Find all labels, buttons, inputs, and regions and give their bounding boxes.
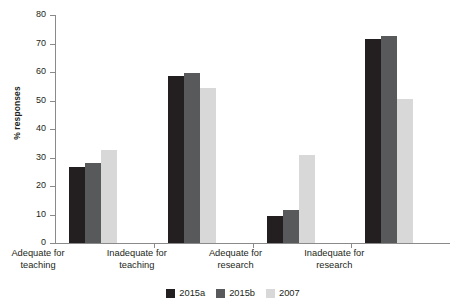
category-label-line: Inadequate for: [82, 248, 192, 260]
y-axis-title: % responses: [12, 63, 22, 163]
y-axis-tick: 60: [50, 72, 55, 73]
legend-item: 2015a: [166, 288, 205, 298]
category-label-line: research: [181, 260, 291, 272]
legend-label: 2015a: [179, 288, 205, 298]
legend-swatch-icon: [266, 289, 275, 298]
bar: [299, 155, 315, 243]
bar: [381, 36, 397, 243]
category-label-line: research: [279, 260, 389, 272]
legend-swatch-icon: [216, 289, 225, 298]
bar: [69, 167, 85, 243]
y-axis-tick-label: 70: [36, 38, 46, 48]
category-label-line: Adequate for: [181, 248, 291, 260]
y-axis-line: [55, 15, 56, 243]
bar: [267, 216, 283, 243]
y-axis-tick-label: 10: [36, 209, 46, 219]
y-axis-tick-label: 40: [36, 123, 46, 133]
legend-label: 2015b: [229, 288, 255, 298]
bar: [101, 150, 117, 243]
legend-item: 2007: [266, 288, 300, 298]
bar: [184, 73, 200, 243]
y-axis-tick: 30: [50, 158, 55, 159]
y-axis-tick-label: 0: [41, 237, 46, 247]
bar: [85, 163, 101, 243]
x-axis-category-label: Inadequate forresearch: [279, 248, 389, 271]
x-axis-category-label: Inadequate forteaching: [82, 248, 192, 271]
x-axis-category-label: Adequate forteaching: [0, 248, 93, 271]
bar: [200, 88, 216, 243]
bar-chart: % responses 01020304050607080 Adequate f…: [0, 0, 466, 308]
y-axis-tick-label: 30: [36, 152, 46, 162]
legend-label: 2007: [279, 288, 300, 298]
y-axis-tick-label: 80: [36, 9, 46, 19]
bar: [365, 39, 381, 243]
y-axis-tick: 10: [50, 215, 55, 216]
legend-swatch-icon: [166, 289, 175, 298]
category-label-line: teaching: [82, 260, 192, 272]
y-axis-tick: 0: [50, 243, 55, 244]
category-label-line: Adequate for: [0, 248, 93, 260]
category-label-line: Inadequate for: [279, 248, 389, 260]
bar: [283, 210, 299, 243]
y-axis-tick: 80: [50, 15, 55, 16]
y-axis-tick-label: 60: [36, 66, 46, 76]
x-axis-category-label: Adequate forresearch: [181, 248, 291, 271]
chart-legend: 2015a2015b2007: [0, 288, 466, 298]
y-axis-tick: 20: [50, 186, 55, 187]
y-axis-tick: 40: [50, 129, 55, 130]
bar: [168, 76, 184, 243]
legend-item: 2015b: [216, 288, 255, 298]
bar: [397, 99, 413, 243]
plot-area: 01020304050607080: [55, 15, 450, 243]
category-label-line: teaching: [0, 260, 93, 272]
y-axis-tick-label: 20: [36, 180, 46, 190]
y-axis-tick: 50: [50, 101, 55, 102]
y-axis-tick-label: 50: [36, 95, 46, 105]
y-axis-tick: 70: [50, 44, 55, 45]
